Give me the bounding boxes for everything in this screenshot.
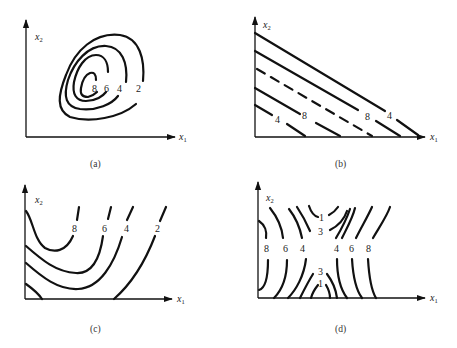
contour-1-lower-b [326,285,330,298]
contour-4-tail [127,207,133,220]
contour-figure: x2 x1 8 6 4 2 (a) x2 x1 4 [0,0,457,348]
contour-label-4: 4 [117,83,122,94]
y-axis-label: x2 [262,19,271,31]
contour-6-right-lower [352,259,362,298]
contour-line-2 [255,51,358,110]
contour-label-8-left: 8 [302,110,307,121]
y-axis-label: x2 [34,194,43,206]
contour-label-4-left: 4 [300,243,305,254]
contour-label-6-right: 6 [349,243,354,254]
panel-d: x2 x1 8 6 4 4 6 8 1 3 3 1 [258,182,438,335]
contour-6-tail [108,207,111,219]
contour-6-right-upper [356,207,372,238]
contour-label-3-bottom: 3 [318,266,323,277]
caption-c: (c) [90,324,101,335]
contour-label-6: 6 [102,223,107,234]
contour-line-5-tail [287,124,305,136]
contour-label-4-right: 4 [334,243,339,254]
contour-label-8-right: 8 [365,111,370,122]
contour-label-8: 8 [92,83,97,94]
contour-line-5 [255,105,272,115]
contour-1-top-right [329,207,338,215]
contour-8-right-lower [368,259,376,298]
y-axis-label: x2 [265,192,274,204]
contour-label-2: 2 [136,83,141,94]
caption-d: (d) [335,324,346,335]
contour-8-right-upper [373,207,390,238]
contour-1-top [309,206,318,217]
x-axis-label: x1 [429,292,438,304]
x-axis-label: x1 [429,131,438,143]
panel-c: x2 x1 8 6 4 2 (c) [25,185,185,335]
contour-1-lower-a [311,285,318,298]
caption-a: (a) [90,159,101,170]
x-axis-label: x1 [176,293,185,305]
contour-label-4: 4 [124,223,129,234]
x-axis-label: x1 [178,131,187,143]
contour-6-left-upper [270,208,283,238]
contour-corner [26,284,42,299]
contour-label-8: 8 [72,223,77,234]
contour-line-3-dashed [257,69,372,136]
contour-line-2-tail [376,121,400,136]
contour-8 [26,211,73,251]
contour-8-left-lower [259,260,268,290]
contour-label-4-left: 4 [275,114,280,125]
contour-6 [74,55,109,101]
contour-6-left-lower [274,260,287,298]
y-axis-label: x2 [34,31,43,43]
contour-label-4-right: 4 [387,110,392,121]
contour-line-4-tail [316,123,340,136]
contour-label-3-top: 3 [318,226,323,237]
contour-label-8-left: 8 [264,243,269,254]
contour-label-8-right: 8 [366,243,371,254]
panel-a: x2 x1 8 6 4 2 (a) [26,20,187,170]
caption-b: (b) [335,159,346,170]
contour-8-tail [77,207,79,220]
panel-b: x2 x1 4 8 8 4 (b) [255,17,438,170]
contour-label-2: 2 [155,223,160,234]
contour-label-1-bottom: 1 [318,278,323,289]
contour-6 [26,236,103,273]
contour-2-tail [160,207,166,221]
contour-label-6-left: 6 [283,243,288,254]
contour-label-6: 6 [104,83,109,94]
contour-8-left-upper [259,221,266,238]
contour-3-lower-b [327,274,337,298]
contour-4-right-lower [337,259,347,298]
contour-label-1-top: 1 [319,212,324,223]
contour-line-1-tail [397,120,418,135]
